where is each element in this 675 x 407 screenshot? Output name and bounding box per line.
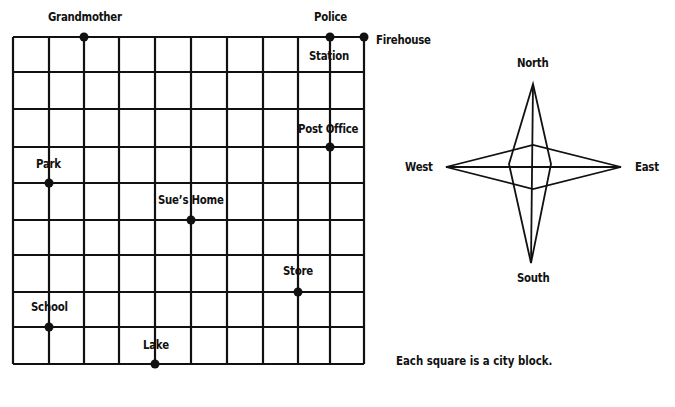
place-marker-post-office: [326, 143, 335, 152]
place-marker-grandmother: [80, 33, 89, 42]
label-lake: Lake: [143, 338, 169, 352]
compass-label-west: West: [405, 160, 433, 174]
compass-vertical-axis: [531, 84, 533, 263]
compass-rose: [446, 84, 621, 263]
label-post-office: Post Office: [298, 122, 358, 136]
place-marker-store: [294, 288, 303, 297]
compass-label-north: North: [517, 56, 548, 70]
place-marker-sue-s-home: [187, 216, 196, 225]
label-firehouse: Firehouse: [376, 33, 431, 47]
label-grandmother: Grandmother: [48, 10, 122, 24]
place-marker-school: [45, 323, 54, 332]
label-park: Park: [36, 157, 61, 171]
label-school: School: [31, 300, 68, 314]
label-store: Store: [283, 264, 313, 278]
label-station: Station: [309, 49, 349, 63]
place-marker-firehouse: [360, 33, 369, 42]
map-caption: Each square is a city block.: [396, 354, 552, 368]
compass-label-east: East: [635, 160, 659, 174]
compass-label-south: South: [517, 271, 549, 285]
place-marker-park: [45, 179, 54, 188]
place-marker-lake: [151, 360, 160, 369]
label-sues-home: Sue’s Home: [158, 193, 224, 207]
label-police: Police: [314, 10, 347, 24]
compass-north-south-arm: [509, 84, 551, 263]
place-marker-police-station: [326, 33, 335, 42]
